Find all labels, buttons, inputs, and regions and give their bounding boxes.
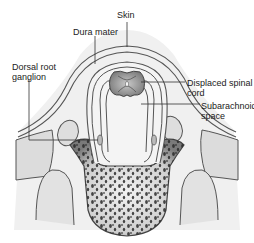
label-skin: Skin xyxy=(117,10,135,20)
label-dorsal-root-ganglion: Dorsal root ganglion xyxy=(12,62,56,82)
label-dura-mater: Dura mater xyxy=(73,27,118,37)
label-subarachnoid-space: Subarachnoid space xyxy=(201,101,254,121)
right-dorsal-root-ganglion xyxy=(152,135,157,145)
left-dorsal-root-ganglion xyxy=(98,135,103,145)
label-displaced-spinal-cord: Displaced spinal cord xyxy=(187,78,253,98)
spine-cross-section-diagram xyxy=(0,0,254,243)
central-canal xyxy=(126,81,129,86)
